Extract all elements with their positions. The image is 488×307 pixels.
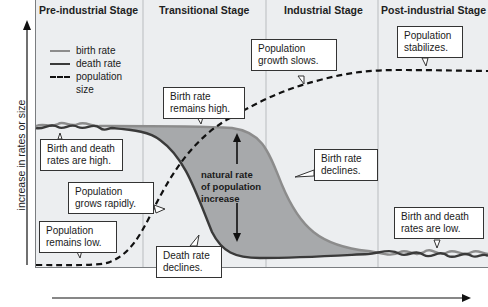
pointer-grows bbox=[154, 205, 165, 213]
callout-population-grows: Population grows rapidly. bbox=[68, 182, 154, 214]
natural-increase-label: natural rate of population increase bbox=[201, 169, 261, 205]
callout-birth-rate-high: Birth rate remains high. bbox=[163, 87, 245, 119]
death-rate-swatch-icon bbox=[50, 63, 70, 65]
callout-death-rate-declines: Death rate declines. bbox=[156, 246, 222, 278]
pointer-stab bbox=[422, 58, 428, 66]
callout-birth-death-low: Birth and death rates are low. bbox=[394, 207, 484, 239]
y-axis-arrow-icon bbox=[23, 20, 31, 30]
x-axis-arrow-icon bbox=[462, 294, 471, 302]
callout-birth-rate-declines: Birth rate declines. bbox=[314, 149, 378, 181]
legend-item-population-size-cont: size bbox=[50, 83, 122, 96]
y-axis-label: increase in rates or size bbox=[15, 70, 27, 240]
legend-item-birth-rate: birth rate bbox=[50, 44, 122, 57]
callout-population-stabilizes: Population stabilizes. bbox=[397, 26, 463, 58]
stage-title-pre-industrial: Pre-industrial Stage bbox=[39, 4, 138, 16]
stage-title-transitional: Transitional Stage bbox=[159, 4, 249, 16]
legend-label-size: size bbox=[76, 83, 94, 96]
pointer-dr-dec bbox=[190, 235, 199, 246]
callout-birth-death-high: Birth and death rates are high. bbox=[40, 139, 123, 171]
birth-rate-swatch-icon bbox=[50, 50, 70, 52]
legend-label-birth-rate: birth rate bbox=[76, 44, 115, 57]
legend-item-death-rate: death rate bbox=[50, 57, 122, 70]
callout-population-low: Population remains low. bbox=[39, 221, 117, 253]
pointer-br-dec bbox=[295, 170, 314, 177]
stage-title-industrial: Industrial Stage bbox=[284, 4, 363, 16]
pointer-slows bbox=[298, 76, 304, 84]
legend-label-death-rate: death rate bbox=[76, 57, 121, 70]
stage-title-post-industrial: Post-industrial Stage bbox=[381, 4, 486, 16]
pointer-bd-low bbox=[434, 240, 440, 248]
legend-label-population: population bbox=[76, 70, 122, 83]
callout-growth-slows: Population growth slows. bbox=[251, 39, 337, 71]
population-size-swatch-icon bbox=[50, 76, 70, 78]
legend: birth rate death rate population size bbox=[50, 44, 122, 96]
legend-item-population-size: population bbox=[50, 70, 122, 83]
